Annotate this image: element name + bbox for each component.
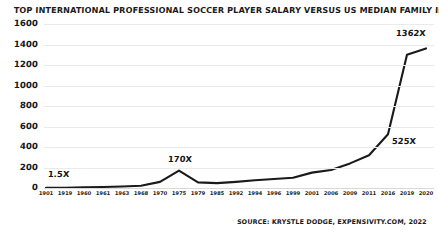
y-axis-tick-label: 400 (20, 141, 38, 151)
x-axis-tick-label: 1963 (115, 190, 130, 196)
gridline (44, 127, 434, 128)
y-axis-tick-label: 200 (20, 162, 38, 172)
plot-area: 02004006008001000120014001600 1.5X170X52… (0, 24, 439, 196)
source-note: SOURCE: KRYSTLE DODGE, EXPENSIVITY.COM, … (237, 218, 427, 226)
data-point-annotation: 1362X (396, 28, 426, 38)
data-point-annotation: 1.5X (48, 169, 70, 179)
x-axis-tick-label: 1901 (39, 190, 54, 196)
y-axis-tick-label: 800 (20, 100, 38, 110)
x-axis-tick-label: 1996 (267, 190, 282, 196)
x-axis-tick-label: 1919 (58, 190, 73, 196)
gridline (44, 147, 434, 148)
grid-area: 1.5X170X525X1362X (44, 24, 434, 188)
y-axis-tick-label: 600 (20, 121, 38, 131)
x-axis-tick-label: 2016 (381, 190, 396, 196)
gridline (44, 45, 434, 46)
y-axis-tick-label: 0 (32, 182, 39, 192)
page-title: TOP INTERNATIONAL PROFESSIONAL SOCCER PL… (14, 5, 428, 15)
x-axis-tick-label: 2001 (305, 190, 320, 196)
gridline (44, 65, 434, 66)
series-path-salary-ratio (46, 48, 426, 187)
x-axis-tick-label: 1960 (77, 190, 92, 196)
gridline (44, 24, 434, 25)
x-axis-tick-label: 1985 (210, 190, 225, 196)
x-axis-tick-label: 1975 (172, 190, 187, 196)
x-axis-tick-label: 2019 (400, 190, 415, 196)
y-axis-tick-label: 1400 (14, 39, 38, 49)
y-axis-tick-label: 1600 (14, 18, 38, 28)
x-axis-tick-label: 1999 (286, 190, 301, 196)
gridline (44, 106, 434, 107)
y-axis-tick-label: 1000 (14, 80, 38, 90)
x-axis-tick-label: 2011 (362, 190, 377, 196)
y-axis: 02004006008001000120014001600 (0, 24, 42, 188)
x-axis-tick-label: 1994 (248, 190, 263, 196)
x-axis-tick-label: 1961 (96, 190, 111, 196)
chart-page: TOP INTERNATIONAL PROFESSIONAL SOCCER PL… (0, 0, 439, 234)
data-point-annotation: 525X (392, 136, 417, 146)
data-point-annotation: 170X (168, 154, 193, 164)
x-axis-tick-label: 2006 (324, 190, 339, 196)
x-axis-tick-label: 2020 (419, 190, 434, 196)
gridline (44, 188, 434, 189)
x-axis-tick-label: 1979 (191, 190, 206, 196)
gridline (44, 168, 434, 169)
y-axis-tick-label: 1200 (14, 59, 38, 69)
x-axis-tick-label: 1968 (134, 190, 149, 196)
gridline (44, 86, 434, 87)
x-axis-tick-label: 1970 (153, 190, 168, 196)
x-axis-tick-label: 1992 (229, 190, 244, 196)
x-axis-tick-label: 2009 (343, 190, 358, 196)
x-axis: 1901191919601961196319681970197519791985… (44, 190, 434, 206)
